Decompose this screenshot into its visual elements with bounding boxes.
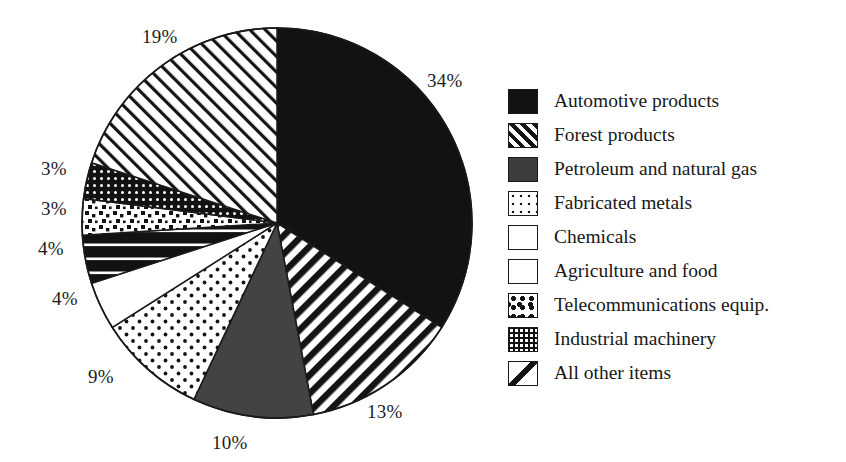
pie-slice-group [82,28,472,418]
legend-swatch-diag-thick-icon [508,123,538,148]
legend-swatch-h-band-icon [508,259,538,284]
legend-item-label: Chemicals [554,226,636,248]
legend-item-label: Fabricated metals [554,192,692,214]
pie-percentage-label: 3% [41,158,67,180]
legend-item: Industrial machinery [508,322,838,356]
legend-swatch-dots-open-icon [508,191,538,216]
legend-item: Telecommunications equip. [508,288,838,322]
legend-swatch-squares-scatter-icon [508,293,538,318]
legend-item: All other items [508,356,838,390]
legend-swatch-grid-dots-icon [508,327,538,352]
legend-item-label: Industrial machinery [554,328,716,350]
pie-percentage-label: 9% [88,366,114,388]
legend-item: Fabricated metals [508,186,838,220]
legend-swatch-white-icon [508,225,538,250]
chart-legend: Automotive productsForest productsPetrol… [508,84,838,390]
pie-percentage-label: 4% [52,288,78,310]
pie-percentage-label: 3% [41,198,67,220]
legend-item-label: Agriculture and food [554,260,718,282]
pie-percentage-label: 34% [427,70,462,92]
legend-swatch-solid-dark-icon [508,157,538,182]
legend-item: Chemicals [508,220,838,254]
legend-item: Forest products [508,118,838,152]
legend-swatch-solid-black-icon [508,89,538,114]
legend-item: Automotive products [508,84,838,118]
pie-percentage-label: 4% [38,238,64,260]
pie-chart-figure: 19%34%3%3%4%4%9%10%13% Automotive produc… [0,0,846,462]
pie-percentage-label: 19% [142,26,177,48]
legend-item: Agriculture and food [508,254,838,288]
legend-item-label: Petroleum and natural gas [554,158,757,180]
legend-item-label: Telecommunications equip. [554,294,769,316]
legend-swatch-diag-single-icon [508,361,538,386]
legend-item-label: Forest products [554,124,675,146]
legend-item: Petroleum and natural gas [508,152,838,186]
legend-item-label: Automotive products [554,90,719,112]
legend-item-label: All other items [554,362,671,384]
pie-percentage-label: 13% [367,401,402,423]
pie-percentage-label: 10% [212,432,247,454]
